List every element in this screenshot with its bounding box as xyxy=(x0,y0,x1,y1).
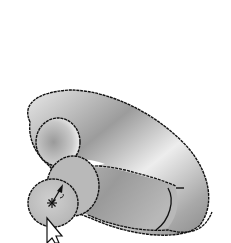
cad-viewport[interactable] xyxy=(0,0,231,243)
model-canvas[interactable] xyxy=(0,0,231,243)
center-point-marker-icon[interactable] xyxy=(47,198,57,208)
